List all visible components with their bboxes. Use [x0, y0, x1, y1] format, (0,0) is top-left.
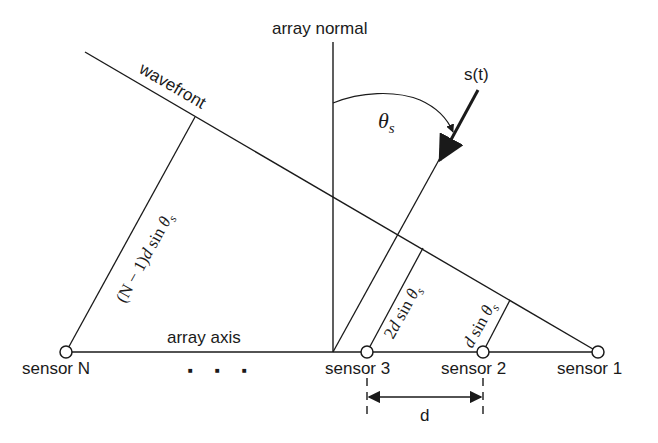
spacing-label: d [420, 406, 429, 425]
sensor-1: sensor 1 [557, 346, 622, 378]
sensor-marker [592, 346, 604, 358]
signal-label: s(t) [464, 65, 489, 84]
sensor-3: sensor 3 [325, 346, 390, 378]
uniform-linear-array-diagram: array normal wavefront array axis ■ ■ ■ … [0, 0, 658, 443]
sensor-marker [477, 346, 489, 358]
signal-arrow [440, 90, 478, 160]
path-sensor-n [66, 117, 195, 352]
sensor-n: sensor N [22, 346, 90, 378]
sensor-marker [361, 346, 373, 358]
theta-s-label: θs [378, 108, 395, 136]
d-sin-theta-label: d sin θs [459, 298, 503, 353]
sensor-label: sensor 3 [325, 359, 390, 378]
sensor-label: sensor 1 [557, 359, 622, 378]
array-axis-label: array axis [167, 328, 241, 347]
wavefront-line [85, 52, 598, 352]
sensor-marker [60, 346, 72, 358]
wavefront-label: wavefront [135, 59, 209, 113]
n-minus-1-d-sin-theta-label: (N − 1)d sin θs [112, 209, 180, 307]
sensor-label: sensor N [22, 359, 90, 378]
array-normal-label: array normal [272, 19, 367, 38]
two-d-sin-theta-label: 2d sin θs [380, 281, 428, 343]
sensor-label: sensor 2 [441, 359, 506, 378]
ellipsis-dots: ■ ■ ■ [188, 366, 257, 375]
